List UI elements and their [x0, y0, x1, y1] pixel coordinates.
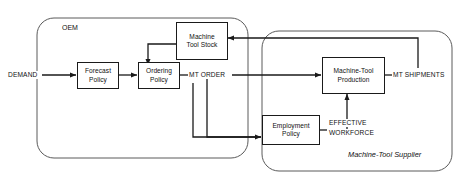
arrow-mtorder-to-employment: [207, 75, 261, 137]
node-ordering-policy[interactable]: Ordering Policy: [138, 62, 180, 89]
boundary-label-machine-tool-supplier: Machine-Tool Supplier: [348, 150, 421, 159]
diagram-canvas: Forecast Policy Ordering Policy Machine …: [0, 0, 463, 186]
boundary-label-oem: OEM: [62, 24, 78, 31]
node-machine-tool-production-line1: Machine-Tool: [334, 67, 374, 75]
node-ordering-policy-line2: Policy: [150, 76, 168, 84]
flow-label-mt-order: MT ORDER: [188, 71, 226, 79]
node-employment-policy-line1: Employment: [272, 122, 309, 130]
flow-label-mt-shipments: MT SHIPMENTS: [392, 71, 446, 79]
node-ordering-policy-line1: Ordering: [146, 67, 172, 75]
node-forecast-policy[interactable]: Forecast Policy: [77, 62, 119, 89]
node-forecast-policy-line1: Forecast: [85, 67, 111, 75]
flow-label-effective-workforce-line2: WORKFORCE: [328, 129, 375, 137]
flow-label-demand: DEMAND: [7, 71, 38, 79]
node-machine-tool-stock[interactable]: Machine Tool Stock: [176, 22, 228, 60]
node-employment-policy-line2: Policy: [282, 130, 300, 138]
node-machine-tool-production[interactable]: Machine-Tool Production: [322, 57, 385, 94]
line-ordering-drop: [193, 83, 261, 137]
node-machine-tool-stock-line1: Machine: [189, 33, 214, 41]
flow-label-effective-workforce-line1: EFFECTIVE: [328, 119, 368, 127]
node-employment-policy[interactable]: Employment Policy: [262, 115, 320, 145]
node-forecast-policy-line2: Policy: [89, 76, 107, 84]
node-machine-tool-production-line2: Production: [337, 76, 369, 84]
node-machine-tool-stock-line2: Tool Stock: [187, 41, 218, 49]
